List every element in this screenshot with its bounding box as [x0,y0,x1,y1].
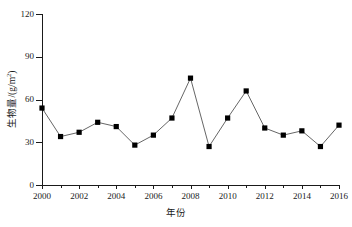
x-tick-2002 [79,185,80,189]
data-point-2014 [299,128,304,133]
y-tick-label-120: 120 [21,10,35,19]
x-tick-2011 [246,185,247,188]
x-axis-title: 年份 [0,205,352,219]
y-tick-30 [36,142,42,143]
y-axis-line [42,14,43,185]
data-point-2011 [244,88,249,93]
y-tick-90 [36,57,42,58]
series-line [42,78,339,146]
x-tick-label-2010: 2010 [219,191,237,201]
x-tick-label-2004: 2004 [107,191,125,201]
x-tick-2006 [153,185,154,189]
x-tick-2016 [339,185,340,189]
x-tick-label-2002: 2002 [70,191,88,201]
x-tick-label-2006: 2006 [144,191,162,201]
x-tick-label-2016: 2016 [330,191,348,201]
y-axis-title-tail: ) [7,71,17,74]
x-tick-2015 [320,185,321,188]
x-tick-2000 [42,185,43,189]
x-tick-2014 [302,185,303,189]
y-tick-label-90: 90 [25,52,34,61]
data-point-2006 [151,133,156,138]
data-point-2002 [77,130,82,135]
x-tick-2007 [172,185,173,188]
data-point-2004 [114,124,119,129]
data-point-2003 [95,120,100,125]
x-tick-2008 [191,185,192,189]
y-tick-label-60: 60 [25,95,34,104]
x-tick-label-2000: 2000 [33,191,51,201]
x-tick-2009 [209,185,210,188]
data-point-2015 [318,144,323,149]
y-tick-label-30: 30 [25,138,34,147]
x-tick-2001 [61,185,62,188]
y-axis-title: 生物量/(g/m2) [4,44,18,154]
x-tick-2004 [116,185,117,189]
x-tick-2003 [98,185,99,188]
y-axis-title-exponent: 2 [5,74,12,77]
y-tick-label-0: 0 [30,181,35,190]
series-markers [39,76,341,150]
x-tick-2010 [228,185,229,189]
data-point-2010 [225,115,230,120]
x-tick-label-2014: 2014 [293,191,311,201]
x-tick-2005 [135,185,136,188]
data-point-2012 [262,125,267,130]
y-tick-120 [36,14,42,15]
data-point-2016 [336,123,341,128]
data-point-2001 [58,134,63,139]
x-tick-2013 [283,185,284,188]
data-point-2007 [169,115,174,120]
data-point-2005 [132,143,137,148]
x-tick-label-2008: 2008 [182,191,200,201]
data-point-2013 [281,133,286,138]
x-tick-2012 [265,185,266,189]
y-tick-60 [36,100,42,101]
x-tick-label-2012: 2012 [256,191,274,201]
data-point-2008 [188,76,193,81]
biomass-line-chart: 0306090120 20002002200420062008201020122… [0,0,352,227]
data-point-2009 [206,144,211,149]
y-axis-title-base: 生物量/(g/m [7,77,17,128]
